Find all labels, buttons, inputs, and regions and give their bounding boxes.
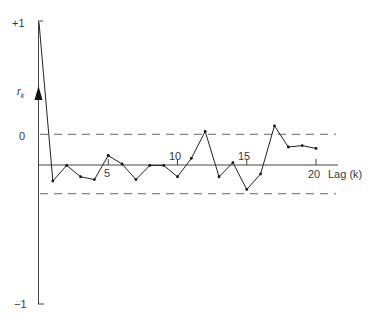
x-tick-label-20: 20 xyxy=(308,168,320,180)
data-point xyxy=(204,130,207,133)
x-tick-label-10: 10 xyxy=(169,150,181,162)
y-label-minus-one: −1 xyxy=(14,298,27,310)
x-axis-title: Lag (k) xyxy=(328,168,362,180)
data-point xyxy=(315,147,318,150)
data-point xyxy=(218,175,221,178)
y-axis-title: rk xyxy=(17,85,25,99)
data-point xyxy=(287,146,290,149)
data-point xyxy=(51,180,54,183)
data-point xyxy=(190,157,193,160)
data-point xyxy=(245,188,248,191)
data-point xyxy=(232,161,235,164)
x-tick-label-5: 5 xyxy=(104,167,110,179)
data-point xyxy=(65,164,68,167)
y-label-plus-one: +1 xyxy=(12,17,25,29)
y-label-zero: 0 xyxy=(19,130,25,142)
x-ticks xyxy=(108,159,316,165)
data-point xyxy=(301,144,304,147)
data-point xyxy=(135,178,138,181)
data-point xyxy=(121,163,124,166)
data-point xyxy=(148,164,151,167)
data-point xyxy=(273,124,276,127)
y-axis-arrow-icon xyxy=(35,86,43,100)
data-point xyxy=(176,175,179,178)
correlogram-chart: +1 0 −1 rk 5 10 15 20 Lag (k) xyxy=(0,0,375,323)
data-point xyxy=(93,178,96,181)
data-point xyxy=(107,154,110,157)
data-point xyxy=(259,173,262,176)
x-tick-label-15: 15 xyxy=(238,150,250,162)
data-point xyxy=(79,175,82,178)
data-point xyxy=(162,164,165,167)
